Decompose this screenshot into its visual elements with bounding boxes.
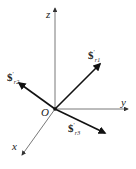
origin-point xyxy=(53,107,57,111)
y-axis-label: y xyxy=(121,97,126,108)
x-axis xyxy=(22,109,55,155)
screw-r1-label: $′r1 xyxy=(88,49,100,63)
coordinate-diagram xyxy=(0,0,136,169)
screw-r2-arrow xyxy=(19,83,55,109)
origin-label: O xyxy=(41,107,49,118)
screw-r3-label: $′r3 xyxy=(68,122,80,136)
z-axis-label: z xyxy=(46,9,50,20)
screw-r1-arrow xyxy=(55,64,100,109)
x-axis-label: x xyxy=(12,141,17,152)
screw-r2-label: $′r2 xyxy=(7,71,19,85)
